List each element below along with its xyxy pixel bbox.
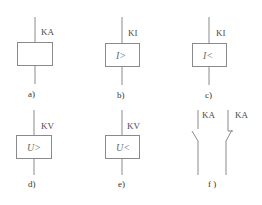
no-contact-blade [192, 131, 198, 141]
caption-d: d) [28, 179, 36, 189]
normally-closed-contact: KA [226, 110, 248, 175]
coil-e-function: U< [116, 142, 130, 153]
symbol-b-overcurrent-relay: KI I> b) [106, 17, 140, 100]
normally-open-contact: KA [192, 110, 215, 175]
caption-c: c) [205, 90, 212, 100]
symbol-f-contacts: KA KA f ) [192, 110, 248, 189]
symbol-c-undercurrent-relay: KI I< c) [193, 17, 227, 100]
symbol-d-overvoltage-relay: KV U> d) [17, 110, 55, 189]
nc-contact-blade [226, 130, 232, 141]
coil-d-tag: KV [41, 121, 54, 131]
coil-a-tag: KA [41, 27, 54, 37]
coil-b-tag: KI [128, 28, 138, 38]
symbol-a-relay-coil: KA a) [18, 17, 55, 99]
coil-b-function: I> [115, 50, 126, 61]
relay-symbol-diagram: KA a) KI I> b) KI I< c) KV U> d) KV U< e… [0, 0, 262, 205]
nc-contact-tag: KA [235, 110, 248, 120]
coil-e-tag: KV [127, 121, 140, 131]
caption-a: a) [28, 89, 35, 99]
coil-a-box [18, 43, 53, 66]
coil-c-function: I< [202, 50, 213, 61]
symbol-e-undervoltage-relay: KV U< e) [106, 110, 141, 189]
coil-c-tag: KI [216, 28, 226, 38]
no-contact-tag: KA [202, 110, 215, 120]
caption-f: f ) [208, 179, 216, 189]
caption-b: b) [117, 90, 125, 100]
coil-d-function: U> [27, 142, 41, 153]
caption-e: e) [118, 179, 125, 189]
